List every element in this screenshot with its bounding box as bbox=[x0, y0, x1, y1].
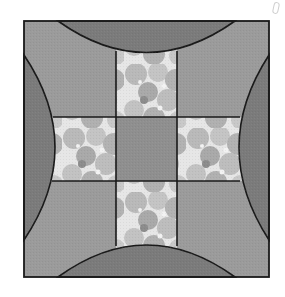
quilt-block-diagram bbox=[0, 0, 285, 297]
